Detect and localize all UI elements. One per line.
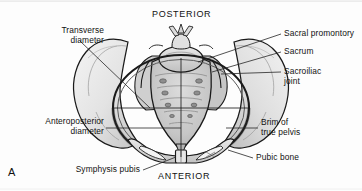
lumbar-vertebra xyxy=(149,24,213,49)
orientation-anterior: ANTERIOR xyxy=(158,171,210,181)
label-brim-of-true-pelvis: Brim of true pelvis xyxy=(261,118,343,137)
label-sacral-promontory: Sacral promontory xyxy=(284,29,362,39)
leader-pubic-bone xyxy=(228,150,253,158)
label-symphysis-pubis: Symphysis pubis xyxy=(52,165,140,175)
orientation-posterior: POSTERIOR xyxy=(152,9,211,19)
label-sacroiliac-joint: Sacroiliac joint xyxy=(284,67,354,86)
label-anteroposterior-diameter: Anteroposterior diameter xyxy=(6,117,104,136)
label-transverse-diameter: Transverse diameter xyxy=(18,26,104,45)
pelvis-anatomy-figure: Transverse diameter Anteroposterior diam… xyxy=(0,0,362,191)
label-sacrum: Sacrum xyxy=(284,47,354,57)
figure-panel-label: A xyxy=(8,166,15,178)
label-pubic-bone: Pubic bone xyxy=(256,153,336,163)
